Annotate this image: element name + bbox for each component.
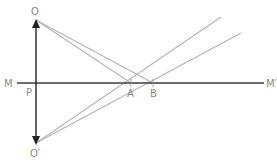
label-O-prime: O′ xyxy=(30,148,41,159)
label-M: M xyxy=(4,78,13,89)
label-M-prime: M′ xyxy=(266,78,277,89)
label-B: B xyxy=(150,88,157,99)
ray-Oprime-A-extended xyxy=(36,17,221,143)
ray-Oprime-B-extended xyxy=(36,33,241,143)
ray-O-B xyxy=(36,20,153,83)
label-P: P xyxy=(26,87,32,98)
ray-O-A xyxy=(36,20,131,83)
label-A: A xyxy=(127,88,134,99)
label-O: O xyxy=(31,6,39,17)
optics-diagram: O O′ M M′ P A B xyxy=(0,0,277,160)
arrowhead-up-icon xyxy=(32,19,40,28)
